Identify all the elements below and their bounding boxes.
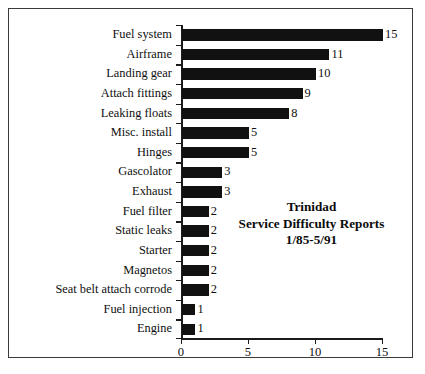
bar-value-label: 1 xyxy=(197,319,203,339)
category-label: Seat belt attach corrode xyxy=(0,280,172,300)
category-label: Magnetos xyxy=(0,261,172,281)
bar xyxy=(182,68,316,79)
bar-value-label: 1 xyxy=(197,300,203,320)
category-label: Gascolator xyxy=(0,162,172,182)
bar-row: Seat belt attach corrode2 xyxy=(181,280,382,300)
bar-value-label: 11 xyxy=(331,45,343,65)
category-tick xyxy=(176,143,181,144)
value-tick-label: 15 xyxy=(367,345,397,360)
category-tick xyxy=(176,221,181,222)
chart-title-line-2: Service Difficulty Reports xyxy=(224,216,399,233)
category-tick xyxy=(176,300,181,301)
bar-row: Engine1 xyxy=(181,319,382,339)
bar xyxy=(182,206,209,217)
chart-title-line-3: 1/85-5/91 xyxy=(224,232,399,249)
bar-value-label: 3 xyxy=(224,162,230,182)
bar-value-label: 5 xyxy=(251,143,257,163)
bar-row: Attach fittings9 xyxy=(181,84,382,104)
category-label: Fuel system xyxy=(0,25,172,45)
category-label: Airframe xyxy=(0,45,172,65)
bar-row: Airframe11 xyxy=(181,45,382,65)
bar-row: Misc. install5 xyxy=(181,123,382,143)
bar-value-label: 10 xyxy=(318,64,330,84)
bar xyxy=(182,49,329,60)
category-label: Landing gear xyxy=(0,64,172,84)
category-tick xyxy=(176,241,181,242)
category-label: Leaking floats xyxy=(0,104,172,124)
bar-value-label: 2 xyxy=(211,280,217,300)
value-tick-label: 0 xyxy=(166,345,196,360)
bar-row: Landing gear10 xyxy=(181,64,382,84)
bar-value-label: 2 xyxy=(211,261,217,281)
bar xyxy=(182,88,303,99)
bar-row: Hinges5 xyxy=(181,143,382,163)
chart-title-line-1: Trinidad xyxy=(224,199,399,216)
category-label: Hinges xyxy=(0,143,172,163)
bar xyxy=(182,265,209,276)
category-tick xyxy=(176,84,181,85)
category-label: Misc. install xyxy=(0,123,172,143)
category-label: Fuel injection xyxy=(0,300,172,320)
category-label: Engine xyxy=(0,319,172,339)
bar xyxy=(182,245,209,256)
bar xyxy=(182,127,249,138)
category-label: Fuel filter xyxy=(0,202,172,222)
chart-title: Trinidad Service Difficulty Reports 1/85… xyxy=(224,199,399,249)
category-label: Starter xyxy=(0,241,172,261)
bar-value-label: 2 xyxy=(211,221,217,241)
category-tick xyxy=(176,280,181,281)
category-tick xyxy=(176,261,181,262)
category-label: Static leaks xyxy=(0,221,172,241)
value-tick-label: 10 xyxy=(300,345,330,360)
bar-value-label: 15 xyxy=(385,25,397,45)
category-tick xyxy=(176,45,181,46)
bar-row: Leaking floats8 xyxy=(181,104,382,124)
bar xyxy=(182,324,195,335)
value-tick xyxy=(382,338,383,344)
bar-row: Gascolator3 xyxy=(181,162,382,182)
value-tick xyxy=(181,338,182,344)
bar xyxy=(182,304,195,315)
bar-value-label: 8 xyxy=(291,104,297,124)
bar-chart-figure: Fuel system15Airframe11Landing gear10Att… xyxy=(0,0,425,374)
category-tick xyxy=(176,64,181,65)
category-tick xyxy=(176,162,181,163)
bar xyxy=(182,225,209,236)
category-label: Exhaust xyxy=(0,182,172,202)
bar-value-label: 5 xyxy=(251,123,257,143)
category-tick xyxy=(176,319,181,320)
category-tick xyxy=(176,202,181,203)
bar xyxy=(182,167,222,178)
bar xyxy=(182,284,209,295)
bar-value-label: 9 xyxy=(305,84,311,104)
value-tick xyxy=(248,338,249,344)
category-tick xyxy=(176,25,181,26)
category-tick xyxy=(176,104,181,105)
category-tick xyxy=(176,182,181,183)
category-tick xyxy=(176,338,181,339)
bar-row: Magnetos2 xyxy=(181,261,382,281)
category-label: Attach fittings xyxy=(0,84,172,104)
bar xyxy=(182,147,249,158)
bar-value-label: 2 xyxy=(211,241,217,261)
plot-area: Fuel system15Airframe11Landing gear10Att… xyxy=(181,25,382,339)
value-tick-label: 5 xyxy=(233,345,263,360)
bar xyxy=(182,186,222,197)
bar-row: Fuel injection1 xyxy=(181,300,382,320)
figure-border: Fuel system15Airframe11Landing gear10Att… xyxy=(8,8,413,358)
category-tick xyxy=(176,123,181,124)
bar xyxy=(182,108,289,119)
value-tick xyxy=(315,338,316,344)
bar-row: Fuel system15 xyxy=(181,25,382,45)
bar xyxy=(182,29,383,40)
bar-value-label: 2 xyxy=(211,202,217,222)
